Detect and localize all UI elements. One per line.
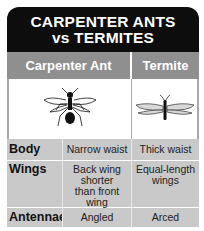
comparison-card: CARPENTER ANTS vs TERMITES Carpenter Ant…	[7, 7, 199, 227]
row-body: Body Narrow waist Thick waist	[7, 139, 199, 160]
row-label-wings: Wings	[7, 161, 62, 207]
row-label-body: Body	[7, 139, 62, 160]
termite-icon	[134, 94, 196, 124]
column-header-carpenter-ant: Carpenter Ant	[7, 52, 130, 79]
title-banner: CARPENTER ANTS vs TERMITES	[7, 7, 199, 52]
title-line-1: CARPENTER ANTS	[7, 14, 199, 30]
carpenter-ant-icon	[40, 86, 100, 132]
ant-body-value: Narrow waist	[62, 139, 131, 160]
row-wings: Wings Back wing shorter than front wing …	[7, 161, 199, 207]
termite-antennae-value: Arced	[131, 208, 199, 227]
termite-image-cell	[131, 79, 199, 139]
row-label-antennae: Antennae	[7, 208, 62, 227]
row-antennae: Antennae Angled Arced	[7, 208, 199, 227]
column-header-termite: Termite	[132, 52, 199, 79]
ant-antennae-value: Angled	[62, 208, 131, 227]
carpenter-ant-image-cell	[7, 79, 130, 139]
termite-body-value: Thick waist	[131, 139, 199, 160]
termite-wings-value: Equal-length wings	[131, 161, 199, 207]
ant-wings-value: Back wing shorter than front wing	[62, 161, 131, 207]
title-line-2: vs TERMITES	[7, 30, 199, 46]
